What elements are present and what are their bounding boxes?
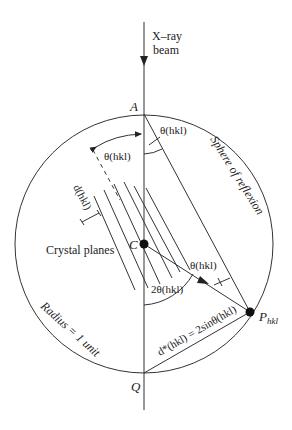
label-theta-left: θ(hkl) — [104, 150, 131, 163]
beam-arrow-icon — [140, 56, 148, 66]
d-spacing-marker — [82, 213, 99, 222]
label-two-theta: 2θ(hkl) — [151, 283, 183, 296]
label-crystal-planes: Crystal planes — [46, 243, 115, 257]
point-p — [246, 308, 255, 317]
crystal-planes — [94, 182, 190, 290]
label-theta-right: θ(hkl) — [190, 259, 217, 272]
line-q-p — [144, 312, 250, 373]
ewald-sphere-diagram: X–ray beam A C Q Phkl θ(hkl) θ(hkl) θ(hk… — [0, 0, 292, 430]
label-sphere: Sphere of reflexion — [207, 133, 267, 217]
label-theta-top: θ(hkl) — [160, 124, 187, 137]
point-c — [140, 240, 149, 249]
theta-arc-right — [214, 278, 230, 285]
label-d-spacing: d(hkl) — [70, 182, 94, 212]
label-q: Q — [131, 379, 141, 394]
label-p: Phkl — [258, 309, 278, 326]
label-c: C — [129, 237, 138, 252]
label-dstar: d*(hkl) = 2sinθ(hkl) — [155, 303, 239, 359]
beam-label-line2: beam — [153, 43, 180, 57]
label-a: A — [129, 99, 138, 114]
theta-arc-left — [96, 134, 141, 147]
diffracted-arrow-icon — [197, 276, 209, 284]
beam-label-line1: X–ray — [152, 29, 182, 43]
theta-arc-top — [144, 149, 162, 154]
